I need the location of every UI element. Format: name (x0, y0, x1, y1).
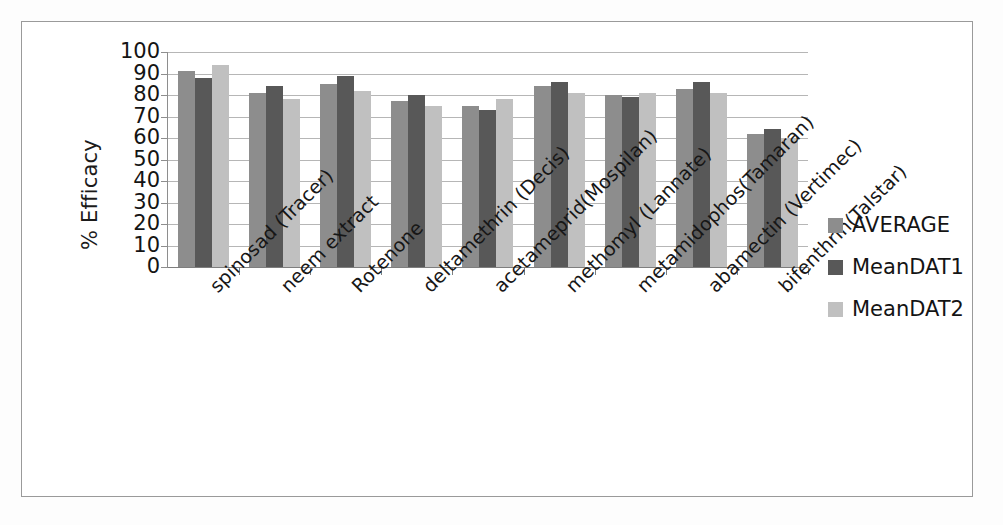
y-axis-tick-label: 80 (133, 84, 160, 105)
x-axis-tick (595, 267, 596, 275)
y-axis-tick-label: 90 (133, 63, 160, 84)
y-axis-tick-label: 50 (133, 149, 160, 170)
y-axis-tick (161, 224, 168, 225)
bar-group (310, 52, 381, 267)
bar (568, 93, 585, 267)
bar (639, 93, 656, 267)
bar (764, 129, 781, 267)
x-axis-tick (452, 267, 453, 275)
bar (391, 101, 408, 267)
bar (496, 99, 513, 267)
bar (178, 71, 195, 267)
bar (195, 78, 212, 267)
bar-group (666, 52, 737, 267)
bar (266, 86, 283, 267)
chart-figure: % Efficacy 1009080706050403020100 spinos… (0, 0, 1003, 525)
bar (212, 65, 229, 267)
y-axis-tick (161, 74, 168, 75)
bar-group (452, 52, 523, 267)
bar (710, 93, 727, 267)
bar-series-container (168, 52, 808, 267)
bar (283, 99, 300, 267)
x-axis-tick (524, 267, 525, 275)
y-axis-tick (161, 95, 168, 96)
bar (693, 82, 710, 267)
legend-label: MeanDAT2 (852, 297, 964, 321)
bar (534, 86, 551, 267)
y-axis-tick-labels: 1009080706050403020100 (104, 52, 160, 268)
bar-group (239, 52, 310, 267)
bar (408, 95, 425, 267)
bar (425, 106, 442, 267)
y-axis-tick-label: 30 (133, 192, 160, 213)
y-axis-tick-label: 70 (133, 106, 160, 127)
x-axis-tick (239, 267, 240, 275)
y-axis-tick-label: 40 (133, 170, 160, 191)
legend-item[interactable]: MeanDAT1 (828, 246, 978, 288)
legend-swatch-icon (828, 302, 843, 317)
y-axis-tick-label: 0 (147, 256, 160, 277)
x-axis-tick (737, 267, 738, 275)
legend-item[interactable]: AVERAGE (828, 204, 978, 246)
bar (605, 95, 622, 267)
x-axis-tick (666, 267, 667, 275)
y-axis-tick (161, 181, 168, 182)
plot-area (168, 52, 808, 267)
legend-item[interactable]: MeanDAT2 (828, 288, 978, 330)
bar (781, 138, 798, 267)
legend-swatch-icon (828, 218, 843, 233)
legend-label: AVERAGE (852, 213, 950, 237)
y-axis-tick-label: 10 (133, 235, 160, 256)
bar (354, 91, 371, 267)
chart-legend: AVERAGEMeanDAT1MeanDAT2 (828, 204, 978, 330)
bar (337, 76, 354, 267)
x-axis-line (167, 267, 808, 268)
x-axis-tick (808, 267, 809, 275)
bar-group (524, 52, 595, 267)
bar-group (595, 52, 666, 267)
bar (249, 93, 266, 267)
y-axis-tick-label: 20 (133, 213, 160, 234)
legend-label: MeanDAT1 (852, 255, 964, 279)
bar-group (381, 52, 452, 267)
bar (320, 84, 337, 267)
bar (551, 82, 568, 267)
y-axis-tick (161, 246, 168, 247)
y-axis-tick (161, 138, 168, 139)
y-axis-tick-label: 100 (120, 41, 160, 62)
y-axis-tick (161, 160, 168, 161)
bar-group (168, 52, 239, 267)
legend-swatch-icon (828, 260, 843, 275)
x-axis-tick (381, 267, 382, 275)
bar (622, 97, 639, 267)
y-axis-tick (161, 117, 168, 118)
y-axis-tick-label: 60 (133, 127, 160, 148)
bar (676, 89, 693, 267)
y-axis-tick (161, 52, 168, 53)
y-axis-tick (161, 267, 168, 268)
x-axis-tick (310, 267, 311, 275)
bar (747, 134, 764, 267)
y-axis-tick (161, 203, 168, 204)
bar-group (737, 52, 808, 267)
bar (479, 110, 496, 267)
bar (462, 106, 479, 267)
